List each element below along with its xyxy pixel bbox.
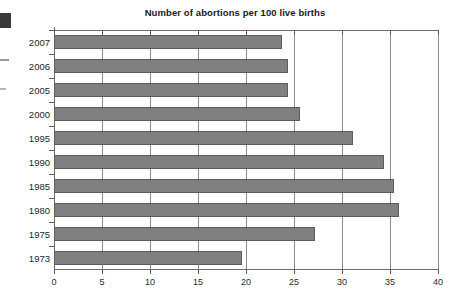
x-axis-label-5: 5 bbox=[99, 277, 104, 287]
x-axis-label-25: 25 bbox=[289, 277, 299, 287]
y-tick-1980 bbox=[49, 198, 54, 199]
y-tick-2005 bbox=[49, 78, 54, 79]
y-tick-2006 bbox=[49, 54, 54, 55]
x-tick-top-40 bbox=[438, 30, 439, 35]
x-tick-30 bbox=[342, 269, 343, 274]
x-tick-15 bbox=[198, 269, 199, 274]
chart-screenshot: Number of abortions per 100 live births … bbox=[0, 0, 470, 308]
bar-1985 bbox=[54, 179, 394, 193]
x-tick-40 bbox=[438, 269, 439, 274]
gridline-x-30 bbox=[342, 30, 343, 270]
x-axis-label-10: 10 bbox=[145, 277, 155, 287]
y-tick-1975 bbox=[49, 222, 54, 223]
scan-artifact-dash-2 bbox=[0, 88, 6, 90]
x-axis-label-35: 35 bbox=[385, 277, 395, 287]
y-axis-label-2007: 2007 bbox=[20, 37, 50, 48]
x-tick-10 bbox=[150, 269, 151, 274]
y-tick-1973 bbox=[49, 246, 54, 247]
x-axis-label-0: 0 bbox=[51, 277, 56, 287]
y-tick-1990 bbox=[49, 150, 54, 151]
y-tick-2000 bbox=[49, 102, 54, 103]
x-tick-5 bbox=[102, 269, 103, 274]
y-axis-label-1973: 1973 bbox=[20, 253, 50, 264]
y-axis-label-1985: 1985 bbox=[20, 181, 50, 192]
x-tick-top-30 bbox=[342, 30, 343, 35]
x-tick-20 bbox=[246, 269, 247, 274]
bar-1990 bbox=[54, 155, 384, 169]
y-axis-label-1975: 1975 bbox=[20, 229, 50, 240]
y-axis-label-2005: 2005 bbox=[20, 85, 50, 96]
y-axis-label-1995: 1995 bbox=[20, 133, 50, 144]
scan-artifact-dash bbox=[0, 59, 9, 61]
gridline-x-35 bbox=[390, 30, 391, 270]
x-axis-label-30: 30 bbox=[337, 277, 347, 287]
x-axis-label-40: 40 bbox=[433, 277, 443, 287]
gridline-x-40 bbox=[438, 30, 439, 270]
x-axis-label-20: 20 bbox=[241, 277, 251, 287]
x-tick-top-35 bbox=[390, 30, 391, 35]
y-axis-label-2000: 2000 bbox=[20, 109, 50, 120]
bar-2005 bbox=[54, 83, 288, 97]
y-axis-label-2006: 2006 bbox=[20, 61, 50, 72]
y-axis-label-1990: 1990 bbox=[20, 157, 50, 168]
bar-1980 bbox=[54, 203, 399, 217]
bar-1975 bbox=[54, 227, 315, 241]
bar-1995 bbox=[54, 131, 353, 145]
y-tick-2007 bbox=[49, 30, 54, 31]
bar-2007 bbox=[54, 35, 282, 49]
x-tick-top-25 bbox=[294, 30, 295, 35]
y-tick-1995 bbox=[49, 126, 54, 127]
y-axis-label-1980: 1980 bbox=[20, 205, 50, 216]
x-tick-25 bbox=[294, 269, 295, 274]
plot-area bbox=[54, 30, 438, 270]
bar-2000 bbox=[54, 107, 300, 121]
bar-1973 bbox=[54, 251, 242, 265]
y-tick-1985 bbox=[49, 174, 54, 175]
chart-title: Number of abortions per 100 live births bbox=[0, 7, 470, 18]
bar-2006 bbox=[54, 59, 288, 73]
x-axis-label-15: 15 bbox=[193, 277, 203, 287]
x-tick-35 bbox=[390, 269, 391, 274]
x-tick-0 bbox=[54, 269, 55, 274]
